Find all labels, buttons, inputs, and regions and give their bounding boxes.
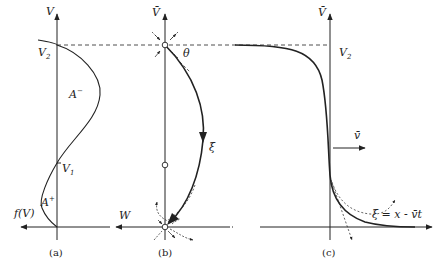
caption-b: (b) <box>158 247 172 258</box>
v2-label-c: V2 <box>339 46 352 61</box>
trajectory-arrow-icon <box>199 132 207 143</box>
v-axis-label: V <box>46 5 55 18</box>
vbar-axis-label: V̄ <box>152 6 161 19</box>
area-minus-label: A− <box>68 87 83 101</box>
area-plus-label: A+ <box>40 195 55 209</box>
f-axis-label: f(V) <box>13 207 35 220</box>
middle-equilibrium-point <box>162 162 168 168</box>
w-axis-label: W <box>119 209 132 222</box>
xi-axis-label: ξ = x - v̄t <box>372 208 422 221</box>
vbar-axis-label-c: V̄ <box>318 6 327 19</box>
caption-c: (c) <box>322 247 336 258</box>
panel-b: V̄ θ ξ W (b) <box>107 6 230 258</box>
velocity-label: v̄ <box>354 129 361 142</box>
panel-c: V̄ V2 v̄ ξ = x - v̄t (c) <box>232 6 432 258</box>
tangent-dotted <box>331 180 352 240</box>
trajectory-curve <box>165 45 203 222</box>
diagram-canvas: V V2 V1 A− A+ f(V) (a) <box>0 0 443 271</box>
wave-profile-curve <box>235 45 415 227</box>
xi-label: ξ <box>209 141 216 154</box>
v2-label: V2 <box>38 46 51 61</box>
caption-a: (a) <box>49 247 63 258</box>
theta-label: θ <box>183 47 190 60</box>
v1-label: V1 <box>62 162 74 177</box>
